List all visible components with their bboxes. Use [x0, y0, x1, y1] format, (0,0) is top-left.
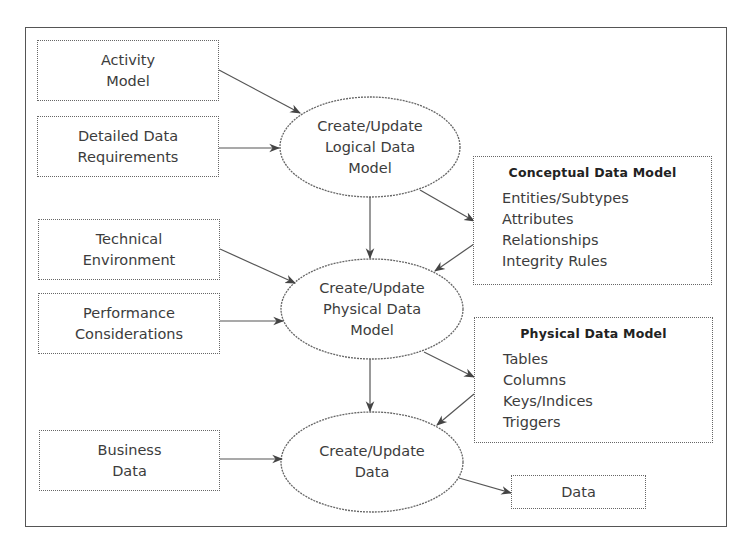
input-box-performance-considerations: Performance Considerations: [38, 293, 220, 354]
process-label: Create/Update: [319, 278, 425, 299]
list-item: Triggers: [503, 412, 712, 433]
input-box-detailed-data-requirements: Detailed Data Requirements: [37, 116, 219, 177]
arrow-data-to-output: [459, 478, 511, 493]
process-label: Create/Update: [319, 441, 425, 462]
list-item: Tables: [503, 349, 712, 370]
input-box-business-data: Business Data: [39, 430, 220, 491]
list-item: Columns: [503, 370, 712, 391]
list-item: Attributes: [502, 209, 711, 230]
list-item: Relationships: [502, 230, 711, 251]
process-label: Model: [350, 320, 394, 341]
box-label: Considerations: [75, 324, 183, 345]
physical-data-model-box: Physical Data Model Tables Columns Keys/…: [474, 317, 713, 443]
box-label: Technical: [96, 229, 163, 250]
process-label: Data: [355, 462, 390, 483]
list-item: Integrity Rules: [502, 251, 711, 272]
process-create-update-physical: Create/Update Physical Data Model: [281, 259, 463, 359]
process-create-update-data: Create/Update Data: [281, 412, 463, 512]
process-create-update-logical: Create/Update Logical Data Model: [280, 97, 460, 197]
conceptual-data-model-box: Conceptual Data Model Entities/Subtypes …: [473, 156, 712, 285]
input-box-activity-model: Activity Model: [37, 40, 219, 101]
physical-model-items: Tables Columns Keys/Indices Triggers: [475, 349, 712, 433]
conceptual-model-items: Entities/Subtypes Attributes Relationshi…: [474, 188, 711, 272]
box-label: Business: [98, 440, 162, 461]
process-label: Create/Update: [317, 116, 423, 137]
input-box-technical-environment: Technical Environment: [38, 219, 220, 280]
physical-model-title: Physical Data Model: [475, 326, 712, 341]
process-label: Model: [348, 158, 392, 179]
box-label: Detailed Data: [78, 126, 178, 147]
process-label: Physical Data: [323, 299, 421, 320]
list-item: Keys/Indices: [503, 391, 712, 412]
box-label: Model: [106, 71, 150, 92]
process-label: Logical Data: [325, 137, 415, 158]
list-item: Entities/Subtypes: [502, 188, 711, 209]
box-label: Data: [561, 482, 596, 503]
box-label: Requirements: [78, 147, 179, 168]
conceptual-model-title: Conceptual Data Model: [474, 165, 711, 180]
box-label: Data: [112, 461, 147, 482]
box-label: Performance: [83, 303, 175, 324]
box-label: Environment: [83, 250, 176, 271]
output-box-data: Data: [511, 475, 646, 509]
box-label: Activity: [101, 50, 155, 71]
